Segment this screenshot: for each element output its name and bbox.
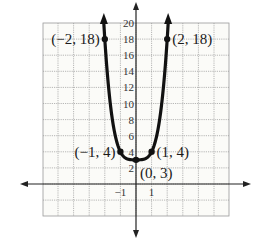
point-label: (−1, 4) [74, 144, 115, 161]
data-point [164, 36, 170, 42]
x-axis-arrow-right-icon [243, 181, 251, 187]
y-tick-label: 20 [123, 17, 135, 29]
point-label: (1, 4) [157, 144, 190, 161]
point-label: (−2, 18) [51, 31, 99, 48]
y-tick-label: 8 [129, 114, 135, 126]
y-tick-label: 10 [123, 98, 135, 110]
y-tick-label: 12 [123, 81, 134, 93]
curve-arrow-up-icon [100, 13, 108, 24]
data-point [102, 36, 108, 42]
x-tick-label: −1 [115, 186, 127, 198]
y-tick-label: 18 [123, 33, 135, 45]
point-label: (0, 3) [140, 165, 173, 182]
y-tick-label: 2 [129, 162, 135, 174]
y-tick-label: 16 [123, 49, 135, 61]
x-tick-label: 1 [149, 186, 155, 198]
point-label: (2, 18) [172, 31, 212, 48]
data-point [117, 149, 123, 155]
y-tick-label: 14 [123, 65, 135, 77]
y-tick-label: 6 [129, 130, 135, 142]
x-axis-arrow-left-icon [20, 181, 28, 187]
curve-arrow-up-icon [164, 13, 172, 24]
y-axis-arrow-up-icon [133, 2, 139, 10]
graph: 2468101214161820−11 (−2, 18)(2, 18)(−1, … [0, 0, 258, 242]
y-tick-label: 4 [129, 146, 135, 158]
data-point [148, 149, 154, 155]
y-axis-arrow-down-icon [133, 230, 139, 238]
data-point [133, 157, 139, 163]
